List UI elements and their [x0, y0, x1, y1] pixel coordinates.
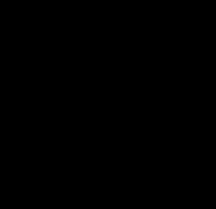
figure-container	[0, 0, 216, 209]
plot-canvas	[0, 0, 216, 209]
plot-background	[0, 0, 216, 209]
